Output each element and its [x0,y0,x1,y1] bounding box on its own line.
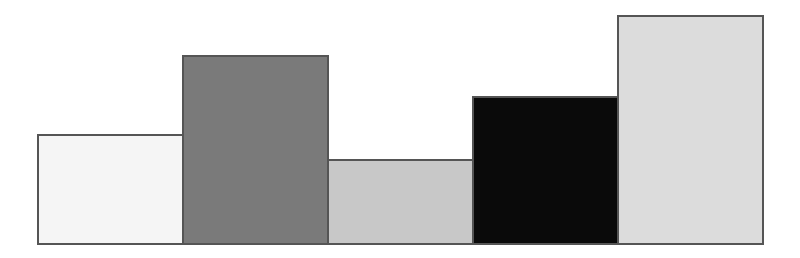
bar-2 [182,55,329,245]
bar-1 [37,134,184,245]
bar-5 [617,15,764,245]
bar-chart [0,0,800,258]
bar-4 [472,96,619,245]
bar-3 [327,159,474,245]
